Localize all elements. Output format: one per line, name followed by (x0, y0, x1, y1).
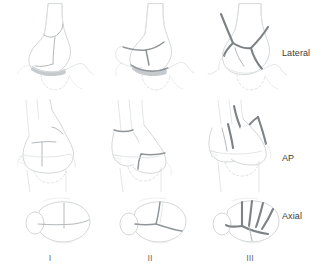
fracture-classification-figure: Lateral AP Axial I II III (0, 0, 321, 274)
column-label-3: III (238, 253, 262, 263)
row-label-lateral: Lateral (282, 48, 310, 58)
row-label-axial: Axial (282, 211, 302, 221)
lateral-type-1 (8, 2, 100, 94)
lateral-type-2 (108, 2, 200, 94)
axial-type-3 (208, 196, 292, 250)
axial-type-1 (22, 196, 106, 250)
ap-type-3 (200, 98, 292, 194)
column-label-2: II (138, 253, 162, 263)
column-label-1: I (38, 253, 62, 263)
ap-type-2 (104, 98, 196, 194)
row-label-ap: AP (282, 153, 294, 163)
ap-type-1 (8, 98, 100, 194)
axial-type-2 (116, 196, 200, 250)
